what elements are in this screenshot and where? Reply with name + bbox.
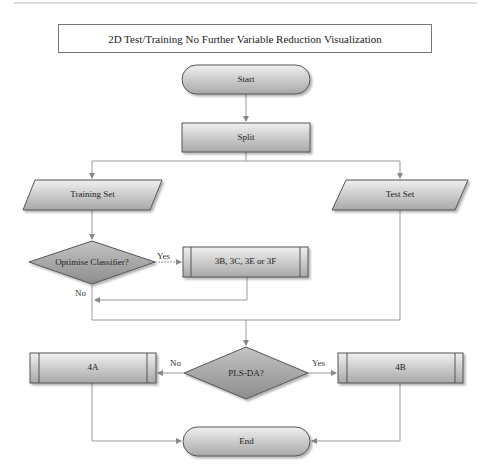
optimise-no-label: No [75,288,86,298]
box-4a-label: 4A [30,362,156,372]
plsda-label: PLS-DA? [184,368,308,378]
diagram-title: 2D Test/Training No Further Variable Red… [58,24,432,53]
plsda-yes-label: Yes [312,358,325,368]
start-label: Start [182,74,310,84]
split-label: Split [182,132,310,142]
subprocess-3b-label: 3B, 3C, 3E or 3F [183,256,308,266]
flowchart-canvas [0,0,491,476]
optimise-label: Optimise Classifier? [29,257,155,267]
plsda-no-label: No [170,358,181,368]
training-set-label: Training Set [23,189,162,199]
optimise-yes-label: Yes [157,251,170,261]
box-4b-label: 4B [338,362,463,372]
test-set-label: Test Set [332,189,468,199]
end-label: End [183,436,310,446]
